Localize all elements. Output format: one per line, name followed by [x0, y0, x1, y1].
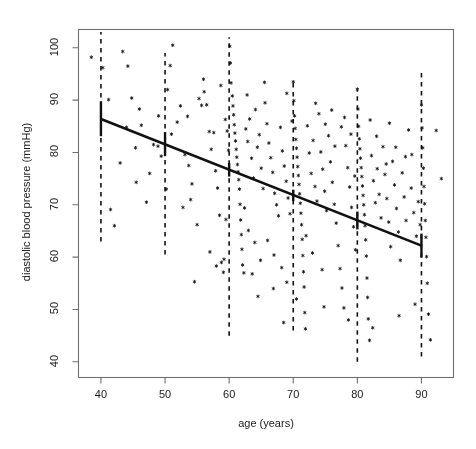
y-tick-label-80: 80: [48, 138, 60, 164]
y-tick-label-100: 100: [48, 34, 60, 60]
x-tick-label-40: 40: [92, 388, 110, 400]
x-tick-label-70: 70: [284, 388, 302, 400]
y-tick-label-40: 40: [48, 348, 60, 374]
y-tick-label-60: 60: [48, 243, 60, 269]
x-tick-label-50: 50: [156, 388, 174, 400]
y-tick-label-90: 90: [48, 86, 60, 112]
y-tick-label-50: 50: [48, 295, 60, 321]
scatter-plot-figure: 405060708090405060708090100 age (years) …: [0, 0, 476, 449]
x-tick-label-90: 90: [412, 388, 430, 400]
x-tick-label-60: 60: [220, 388, 238, 400]
y-axis-title: diastolic blood pressure (mmHg): [20, 102, 32, 302]
x-axis-title: age (years): [206, 417, 326, 429]
y-tick-label-70: 70: [48, 191, 60, 217]
x-tick-label-80: 80: [348, 388, 366, 400]
plot-canvas: [0, 0, 476, 449]
